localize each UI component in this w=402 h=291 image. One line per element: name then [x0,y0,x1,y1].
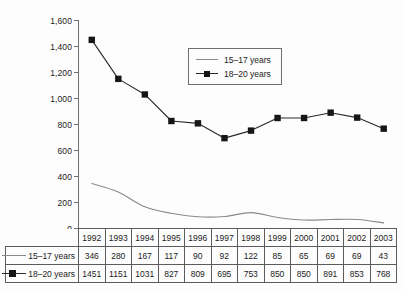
table-row-header-15-17-years: 15–17 years [6,247,79,265]
data-point-marker [89,37,95,43]
table-corner-cell [6,229,79,247]
legend-item-15-17-years: 15–17 years [189,53,281,67]
data-point-marker [195,120,201,126]
legend-item-label: 15–17 years [224,55,271,65]
table-header-row: 1992 1993 1994 1995 1996 1997 1998 1999 … [6,229,397,247]
row-line-icon [2,251,26,261]
table-cell: 85 [264,247,291,265]
table-cell: 1151 [105,265,132,283]
legend-line-square-marker-icon [196,68,218,80]
data-point-marker [301,115,307,121]
table-column-header: 1997 [211,229,238,247]
table-cell: 753 [238,265,265,283]
row-line-square-marker-icon [2,269,26,279]
table-cell: 853 [344,265,371,283]
table-cell: 122 [238,247,265,265]
legend-line-icon [196,54,218,66]
table-cell: 117 [158,247,185,265]
table-row-label: 18–20 years [28,269,75,279]
table-cell: 69 [344,247,371,265]
legend: 15–17 years 18–20 years [188,48,282,85]
data-point-marker [381,125,387,131]
table-cell: 695 [211,265,238,283]
table-column-header: 1996 [185,229,212,247]
data-point-marker [327,109,333,115]
table-cell: 827 [158,265,185,283]
series-1-path [92,184,384,223]
table-row: 18–20 years 1451 1151 1031 827 809 695 7… [6,265,397,283]
data-point-marker [142,91,148,97]
legend-item-label: 18–20 years [224,69,271,79]
data-point-marker [221,135,227,141]
table-column-header: 2000 [291,229,318,247]
table-cell: 65 [291,247,318,265]
table-column-header: 2001 [317,229,344,247]
table-cell: 280 [105,247,132,265]
table-cell: 809 [185,265,212,283]
table-cell: 850 [264,265,291,283]
data-point-marker [274,115,280,121]
table-cell: 1031 [132,265,159,283]
table-cell: 69 [317,247,344,265]
table-cell: 167 [132,247,159,265]
y-axis-ticks [74,21,79,229]
data-point-marker [115,76,121,82]
table-cell: 768 [370,265,397,283]
table-cell: 1451 [79,265,106,283]
table-row-label: 15–17 years [28,251,75,261]
data-point-marker [168,118,174,124]
legend-item-18-20-years: 18–20 years [189,67,281,81]
table-column-header: 1993 [105,229,132,247]
table-cell: 891 [317,265,344,283]
table-column-header: 2003 [370,229,397,247]
chart-figure: 1,600 1,400 1,200 1,000 800 600 400 200 … [0,0,402,291]
data-point-marker [354,114,360,120]
chart-canvas [0,0,402,232]
data-table: 1992 1993 1994 1995 1996 1997 1998 1999 … [5,228,397,283]
table-column-header: 1999 [264,229,291,247]
table-column-header: 1998 [238,229,265,247]
table-column-header: 2002 [344,229,371,247]
table-cell: 346 [79,247,106,265]
plot-area: 1,600 1,400 1,200 1,000 800 600 400 200 … [0,0,402,232]
series-line-15-17-years [92,184,384,223]
table-column-header: 1995 [158,229,185,247]
table-cell: 43 [370,247,397,265]
table-row-header-18-20-years: 18–20 years [6,265,79,283]
table-cell: 850 [291,265,318,283]
table-column-header: 1992 [79,229,106,247]
table-cell: 90 [185,247,212,265]
table-cell: 92 [211,247,238,265]
table-column-header: 1994 [132,229,159,247]
table-row: 15–17 years 346 280 167 117 90 92 122 85… [6,247,397,265]
data-point-marker [248,127,254,133]
